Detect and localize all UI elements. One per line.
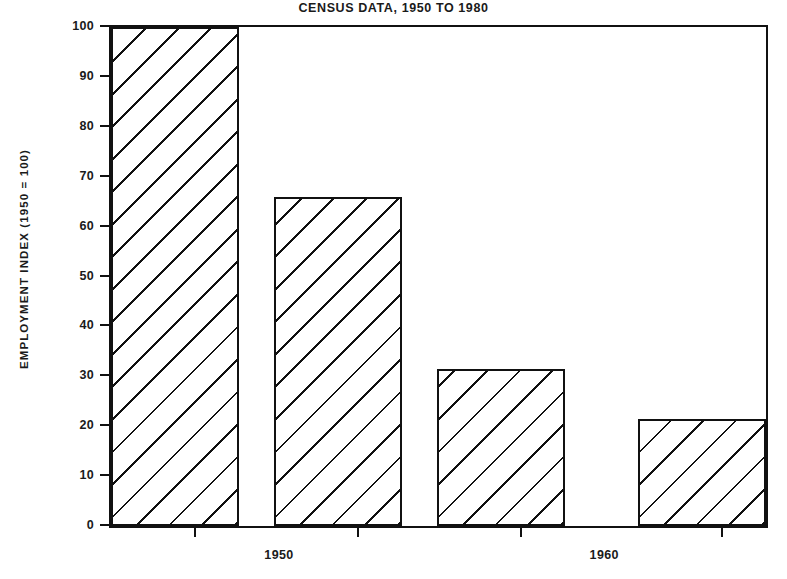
chart-title: CENSUS DATA, 1950 TO 1980 <box>0 1 787 15</box>
y-axis-tick: 80 <box>100 125 111 127</box>
y-axis-tick: 10 <box>100 474 111 476</box>
y-axis-tick-label: 70 <box>79 169 94 183</box>
y-axis-tick-label: 60 <box>79 219 94 233</box>
y-axis-tick-label: 100 <box>72 19 94 33</box>
y-axis-tick-label: 0 <box>87 518 94 532</box>
bar-1970 <box>437 369 565 526</box>
x-axis-tick: 1960 <box>357 526 359 537</box>
y-axis-tick: 70 <box>100 175 111 177</box>
y-axis-tick: 40 <box>100 324 111 326</box>
y-axis-title: EMPLOYMENT INDEX (1950 = 100) <box>18 69 30 449</box>
bar-1950 <box>111 27 239 526</box>
y-axis-tick-label: 50 <box>79 269 94 283</box>
y-axis-tick: 20 <box>100 424 111 426</box>
y-axis-tick-label: 40 <box>79 318 94 332</box>
y-axis-tick: 90 <box>100 75 111 77</box>
bar-1960 <box>274 197 402 526</box>
bar-1980 <box>638 419 766 526</box>
y-axis-tick: 60 <box>100 225 111 227</box>
x-axis-tick-label: 1960 <box>590 548 619 562</box>
plot-area: 01020304050607080901001950196019701980 <box>109 25 768 528</box>
y-axis-tick: 30 <box>100 374 111 376</box>
y-axis-tick-label: 90 <box>79 69 94 83</box>
x-axis-tick-label: 1950 <box>264 548 293 562</box>
y-axis-tick-label: 80 <box>79 119 94 133</box>
x-axis-tick: 1950 <box>194 526 196 537</box>
y-axis-tick: 50 <box>100 275 111 277</box>
y-axis-tick-label: 10 <box>79 468 94 482</box>
y-axis-tick-label: 20 <box>79 418 94 432</box>
y-axis-tick: 100 <box>100 25 111 27</box>
y-axis-tick: 0 <box>100 524 111 526</box>
y-axis-tick-label: 30 <box>79 368 94 382</box>
bar-chart: CENSUS DATA, 1950 TO 1980 EMPLOYMENT IND… <box>0 0 787 579</box>
x-axis-tick: 1970 <box>520 526 522 537</box>
x-axis-tick: 1980 <box>721 526 723 537</box>
bars-layer <box>111 27 766 526</box>
